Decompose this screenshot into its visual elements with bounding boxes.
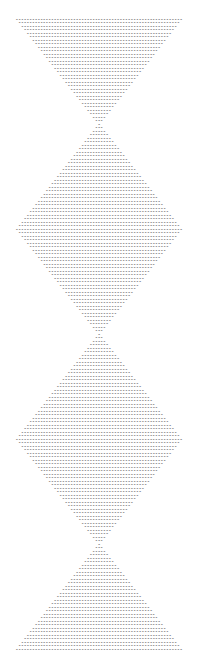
ascii-art-figure: ----------------------------------------…: [0, 18, 198, 652]
